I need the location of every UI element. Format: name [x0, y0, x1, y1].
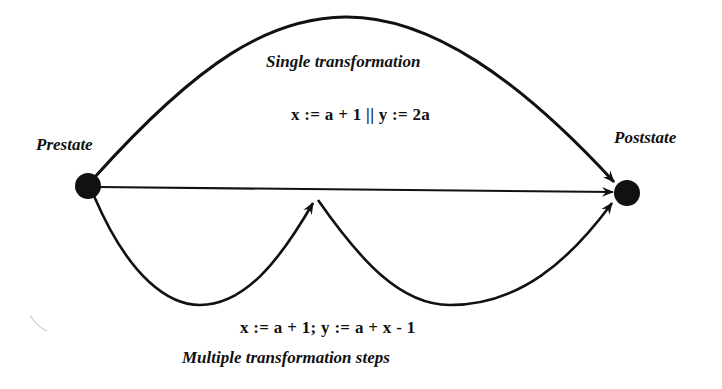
prestate-node: [75, 173, 101, 199]
poststate-label: Poststate: [614, 128, 676, 148]
scan-artifact: [30, 315, 47, 331]
single-transformation-formula: x := a + 1 || y := 2a: [291, 105, 430, 125]
multiple-transformation-formula: x := a + 1; y := a + x - 1: [240, 318, 415, 338]
single-transformation-arc: [94, 17, 614, 182]
poststate-node: [614, 180, 640, 206]
direct-transition-line: [98, 187, 613, 192]
step-one-arc: [94, 196, 313, 305]
prestate-label: Prestate: [36, 135, 93, 155]
step-two-arc: [318, 200, 612, 305]
multiple-transformation-title: Multiple transformation steps: [182, 348, 390, 368]
single-transformation-title: Single transformation: [266, 52, 420, 72]
